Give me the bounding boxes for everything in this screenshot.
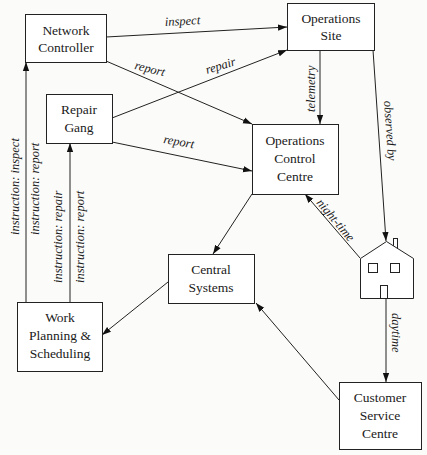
- node-repair-gang: Repair Gang: [47, 95, 113, 144]
- edge-cs-to-wp: [102, 282, 168, 335]
- house-icon: [361, 239, 414, 299]
- edge-wp-to-nc: instruction: inspect instruction: report: [8, 62, 42, 302]
- node-work-planning-scheduling: Work Planning & Scheduling: [18, 303, 103, 372]
- node-label-line: Controller: [38, 40, 94, 55]
- flow-diagram: inspect report repair report telemetry o…: [0, 0, 427, 455]
- edge-label-night-time: night-time: [314, 196, 358, 245]
- node-label-line: Customer: [354, 390, 407, 405]
- edge-label-daytime: daytime: [389, 313, 403, 353]
- node-label-line: Work: [45, 310, 75, 325]
- node-customer-service-centre: Customer Service Centre: [340, 383, 422, 450]
- node-label-line: Planning &: [29, 328, 91, 343]
- edge-csc-to-cs: [256, 303, 339, 400]
- node-label-line: Centre: [362, 426, 398, 441]
- node-label-line: Control: [274, 151, 316, 166]
- node-operations-control-centre: Operations Control Centre: [253, 125, 339, 195]
- edge-label-inspect: inspect: [164, 13, 201, 29]
- node-network-controller: Network Controller: [26, 15, 107, 63]
- node-operations-site: Operations Site: [288, 4, 375, 51]
- node-label-line: Repair: [61, 102, 97, 117]
- node-label-line: Network: [42, 23, 89, 38]
- edge-house-to-csc: daytime: [386, 298, 403, 382]
- node-central-systems: Central Systems: [169, 255, 255, 304]
- house-window-right: [391, 264, 400, 273]
- edge-label-observed-by: observed by: [381, 100, 399, 161]
- edge-label-instruction-report-nc: instruction: report: [28, 142, 42, 235]
- node-label-line: Gang: [64, 120, 93, 135]
- edge-label-telemetry: telemetry: [304, 65, 318, 112]
- house-door: [381, 286, 388, 299]
- house-window-left: [369, 264, 378, 273]
- edge-wp-to-rg: instruction: repair instruction: report: [51, 143, 87, 302]
- node-label-line: Central: [191, 262, 231, 277]
- edge-house-to-occ: night-time: [305, 194, 360, 258]
- edge-label-instruction-report-rg: instruction: report: [73, 190, 87, 283]
- node-label-line: Operations: [265, 133, 324, 148]
- node-label-line: Scheduling: [30, 346, 91, 361]
- edge-nc-to-os: inspect: [106, 13, 287, 37]
- node-label-line: Site: [320, 28, 341, 43]
- node-label-line: Systems: [188, 280, 233, 295]
- node-label-line: Service: [360, 408, 400, 423]
- edge-label-instruction-repair: instruction: repair: [51, 191, 65, 283]
- edge-os-to-house: observed by: [373, 50, 399, 241]
- edge-label-instruction-inspect: instruction: inspect: [8, 138, 22, 235]
- edge-occ-to-cs: [213, 194, 252, 254]
- edge-label-report-nc: report: [133, 58, 167, 79]
- edge-rg-to-occ: report: [112, 132, 252, 171]
- edge-label-repair: repair: [204, 54, 238, 76]
- node-label-line: Operations: [301, 11, 360, 26]
- edge-label-report-rg: report: [162, 132, 195, 151]
- node-label-line: Centre: [277, 169, 313, 184]
- edge-os-to-occ: telemetry: [304, 50, 320, 124]
